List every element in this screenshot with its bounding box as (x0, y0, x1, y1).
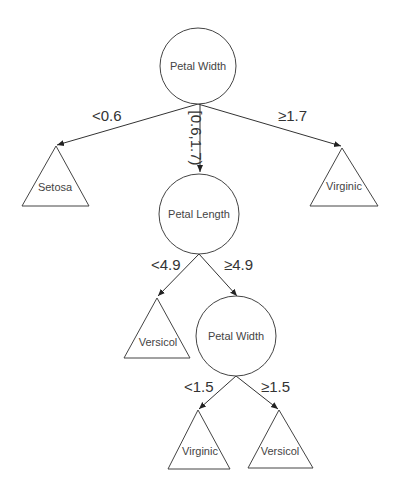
edge-petal-width-to-virginic: <1.5 (184, 376, 236, 409)
node-label: Petal Length (168, 208, 230, 220)
decision-tree-diagram: <0.6 [0.6,1.7) ≥1.7 <4.9 ≥4.9 <1.5 ≥1.5 … (0, 0, 399, 496)
edge-root-to-virginic: ≥1.7 (198, 104, 341, 146)
edge-label-ge-1.5: ≥1.5 (261, 378, 290, 395)
leaf-triangle (22, 146, 89, 206)
edge-root-to-setosa: <0.6 (57, 104, 198, 145)
leaf-versicol-2: Versicol (248, 410, 313, 468)
leaf-triangle (310, 148, 378, 206)
leaf-label: Versicol (139, 336, 178, 348)
edge-label-lt-0.6: <0.6 (92, 107, 122, 124)
node-root-petal-width: Petal Width (160, 28, 236, 104)
leaf-label: Virginic (182, 445, 218, 457)
leaf-label: Versicol (261, 445, 300, 457)
leaf-label: Setosa (38, 181, 73, 193)
leaf-triangle (124, 298, 190, 358)
leaf-triangle (248, 410, 313, 468)
edge-petal-length-to-petal-width: ≥4.9 (199, 254, 253, 296)
edge-label-0.6-1.7: [0.6,1.7) (188, 110, 205, 165)
leaf-triangle (168, 410, 230, 469)
edge-label-ge-4.9: ≥4.9 (224, 256, 253, 273)
edge-label-ge-1.7: ≥1.7 (278, 107, 307, 124)
node-label: Petal Width (208, 330, 264, 342)
edge-root-to-petal-length: [0.6,1.7) (188, 104, 205, 172)
edge-petal-length-to-versicol: <4.9 (151, 254, 199, 296)
leaf-versicol-1: Versicol (124, 298, 190, 358)
leaf-virginic-2: Virginic (168, 410, 230, 469)
node-label: Petal Width (170, 60, 226, 72)
edge-label-lt-4.9: <4.9 (151, 256, 181, 273)
node-petal-length: Petal Length (159, 174, 239, 254)
node-petal-width-2: Petal Width (196, 296, 276, 376)
edge-petal-width-to-versicol: ≥1.5 (236, 376, 290, 409)
leaf-setosa: Setosa (22, 146, 89, 206)
edge-label-lt-1.5: <1.5 (184, 378, 214, 395)
leaf-label: Virginic (326, 180, 362, 192)
leaf-virginic-1: Virginic (310, 148, 378, 206)
